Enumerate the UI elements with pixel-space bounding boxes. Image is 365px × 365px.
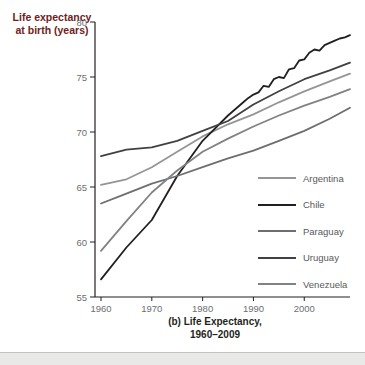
y-tick-label: 55 xyxy=(76,292,87,303)
legend-item-argentina: Argentina xyxy=(258,173,344,183)
legend-label-venezuela: Venezuela xyxy=(303,279,347,290)
life-expectancy-figure: Life expectancy at birth (years) 5560657… xyxy=(0,0,365,365)
legend-label-paraguay: Paraguay xyxy=(303,226,344,237)
legend-label-uruguay: Uruguay xyxy=(303,252,339,263)
y-tick-label: 70 xyxy=(76,127,87,138)
caption-line1: (b) Life Expectancy, xyxy=(95,315,335,328)
y-tick-label: 60 xyxy=(76,237,87,248)
legend-item-uruguay: Uruguay xyxy=(258,253,339,263)
legend-swatch-venezuela xyxy=(258,283,296,285)
series-line-argentina xyxy=(101,74,350,185)
y-tick-label: 80 xyxy=(76,17,87,28)
legend-item-venezuela: Venezuela xyxy=(258,279,347,289)
legend-swatch-chile xyxy=(258,204,296,206)
series-line-chile xyxy=(101,35,350,279)
legend-label-argentina: Argentina xyxy=(303,173,344,184)
legend-swatch-uruguay xyxy=(258,257,296,259)
caption-line2: 1960–2009 xyxy=(95,328,335,341)
x-tick-label: 1990 xyxy=(243,303,264,314)
legend-swatch-argentina xyxy=(258,177,296,179)
chart-caption: (b) Life Expectancy, 1960–2009 xyxy=(95,315,335,341)
legend-swatch-paraguay xyxy=(258,230,296,232)
x-tick-label: 1960 xyxy=(90,303,111,314)
legend-item-paraguay: Paraguay xyxy=(258,226,344,236)
x-tick-label: 1980 xyxy=(192,303,213,314)
legend-label-chile: Chile xyxy=(303,199,325,210)
page-edge-strip xyxy=(0,352,365,365)
series-line-uruguay xyxy=(101,63,350,157)
legend-item-chile: Chile xyxy=(258,200,325,210)
x-tick-label: 2000 xyxy=(294,303,315,314)
y-tick-label: 75 xyxy=(76,72,87,83)
y-tick-label: 65 xyxy=(76,182,87,193)
x-tick-label: 1970 xyxy=(141,303,162,314)
